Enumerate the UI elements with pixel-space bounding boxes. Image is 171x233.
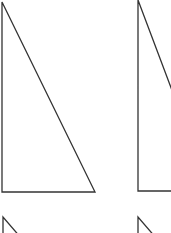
triangle-2	[138, 0, 171, 191]
triangles-diagram	[0, 0, 171, 233]
triangle-4-partial	[138, 217, 171, 233]
triangle-3-partial	[3, 217, 40, 233]
triangle-1	[2, 2, 95, 192]
